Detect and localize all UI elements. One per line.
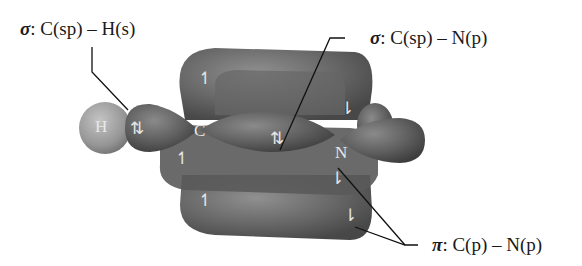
spin-down-top: ⇂ xyxy=(340,98,354,118)
atom-c: C xyxy=(194,121,205,141)
spin-down-mid: ⇂ xyxy=(330,168,344,188)
spin-up-top: ↿ xyxy=(198,68,212,88)
spin-pair-ch: ⇅ xyxy=(130,118,144,138)
spin-up-mid: ↿ xyxy=(175,148,189,168)
spin-up-bottom: ↿ xyxy=(198,190,212,210)
label-text: : C(sp) – N(p) xyxy=(380,27,487,48)
atom-n: N xyxy=(335,143,347,163)
label-text: : C(sp) – H(s) xyxy=(30,18,135,39)
pi-symbol: π xyxy=(432,234,442,255)
sigma-symbol: σ xyxy=(370,27,380,48)
label-pi-cn: π: C(p) – N(p) xyxy=(432,234,542,256)
spin-down-bottom: ⇂ xyxy=(343,205,357,225)
spin-pair-cn: ⇅ xyxy=(270,128,284,148)
atom-h: H xyxy=(95,117,107,137)
label-sigma-ch: σ: C(sp) – H(s) xyxy=(20,18,135,40)
sigma-symbol: σ xyxy=(20,18,30,39)
label-sigma-cn: σ: C(sp) – N(p) xyxy=(370,27,487,49)
label-text: : C(p) – N(p) xyxy=(442,234,542,255)
